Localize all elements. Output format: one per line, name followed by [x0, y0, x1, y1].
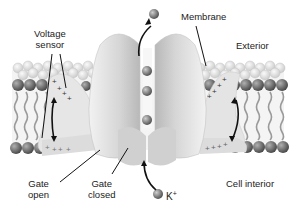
voltage-sensor-label-line1: Voltage	[34, 28, 66, 39]
gate-closed-label-line2: closed	[88, 189, 115, 200]
svg-text:+: +	[58, 145, 63, 154]
entry-arrow	[144, 162, 156, 190]
svg-text:+: +	[211, 143, 216, 152]
ion-pore-3	[142, 115, 152, 125]
gate-open-label-line2: open	[28, 189, 49, 200]
ion-symbol: K	[166, 191, 173, 202]
ion-label: K+	[166, 188, 177, 202]
exterior-label: Exterior	[236, 40, 269, 51]
voltage-sensor-label-line2: sensor	[34, 39, 66, 50]
svg-text:+: +	[45, 143, 50, 152]
gate-closed-label: Gate closed	[88, 178, 115, 200]
svg-text:+: +	[52, 145, 57, 154]
ion-pore-1	[142, 66, 152, 76]
cell-interior-label: Cell interior	[226, 178, 274, 189]
svg-text:+: +	[66, 145, 71, 154]
ion-pore-2	[142, 86, 152, 96]
gate-open-label-line1: Gate	[28, 178, 49, 189]
svg-text:+: +	[217, 81, 222, 90]
gate-closed-label-line1: Gate	[88, 178, 115, 189]
svg-text:+: +	[223, 140, 228, 149]
potassium-channel-diagram: ++++ ++++ ++++ ++++	[0, 0, 295, 214]
ion-charge: +	[173, 190, 177, 197]
svg-text:+: +	[205, 144, 210, 153]
svg-text:+: +	[212, 87, 217, 96]
ion-interior	[153, 189, 163, 199]
svg-text:+: +	[67, 94, 72, 103]
voltage-sensor-label: Voltage sensor	[34, 28, 66, 50]
svg-text:+: +	[207, 92, 212, 101]
membrane-label: Membrane	[181, 11, 226, 22]
svg-text:+: +	[222, 75, 227, 84]
svg-text:+: +	[217, 142, 222, 151]
ion-exterior	[149, 9, 159, 19]
gate-open-label: Gate open	[28, 178, 49, 200]
